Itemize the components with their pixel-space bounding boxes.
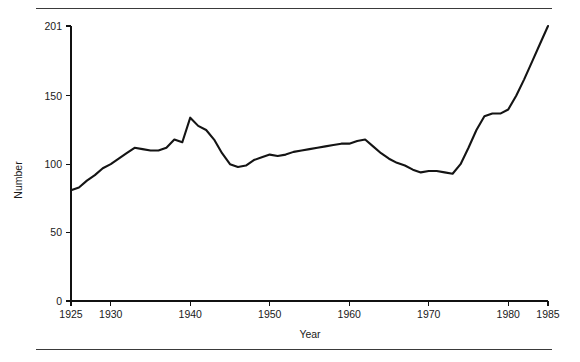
- y-axis-ticks: [66, 26, 71, 301]
- y-tick-label: 201: [44, 20, 62, 32]
- y-tick-label: 0: [56, 295, 62, 307]
- data-series-line: [71, 26, 548, 190]
- x-tick-label: 1940: [179, 308, 203, 320]
- y-tick-label: 50: [50, 226, 62, 238]
- x-axis-tick-labels: 19251930194019501960197019801985: [59, 308, 560, 320]
- x-tick-label: 1980: [497, 308, 521, 320]
- line-chart: 050100150201 192519301940195019601970198…: [0, 0, 580, 362]
- axis-lines: [71, 26, 548, 301]
- y-axis-title: Number: [12, 161, 24, 199]
- x-tick-label: 1930: [99, 308, 123, 320]
- x-axis-title: Year: [299, 328, 321, 340]
- x-tick-label: 1985: [536, 308, 560, 320]
- figure-container: 050100150201 192519301940195019601970198…: [0, 0, 580, 362]
- y-tick-label: 100: [44, 158, 62, 170]
- x-tick-label: 1925: [59, 308, 83, 320]
- axes-group: [66, 26, 548, 306]
- x-tick-label: 1950: [258, 308, 282, 320]
- x-tick-label: 1970: [417, 308, 441, 320]
- x-axis-ticks: [71, 301, 548, 306]
- x-tick-label: 1960: [338, 308, 362, 320]
- y-axis-tick-labels: 050100150201: [44, 20, 62, 307]
- y-tick-label: 150: [44, 90, 62, 102]
